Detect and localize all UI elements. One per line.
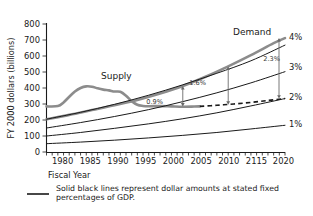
chart-canvas: 800 700 600 500 400 300 200 100 0 1980 1… (0, 0, 313, 216)
arrow-head-bottom (277, 95, 281, 98)
x-tick-label: 1990 (107, 156, 128, 166)
gap-arrow-1-6pct (226, 66, 230, 104)
annotation-label-2-3pct: 2.3% (263, 55, 280, 63)
footnote-line-2: percentages of GDP. (56, 193, 135, 202)
x-tick-label: 2020 (273, 156, 294, 166)
annotation-label-0-9pct: 0.9% (146, 98, 163, 106)
y-tick-marks (43, 24, 47, 152)
footnote-line-1: Solid black lines represent dollar amoun… (56, 184, 279, 193)
x-tick-label: 2115 (246, 156, 267, 166)
y-tick-label: 300 (24, 99, 40, 109)
annotation-label-1-6pct: 1.6% (189, 79, 206, 87)
series-label-demand: Demand (233, 27, 271, 37)
y-tick-label: 600 (24, 51, 40, 61)
y-tick-label: 400 (24, 83, 40, 93)
x-tick-label: 2005 (190, 156, 211, 166)
right-label-1pct: 1% (289, 119, 302, 129)
chart-figure: 800 700 600 500 400 300 200 100 0 1980 1… (0, 0, 313, 216)
right-label-2pct: 2% (289, 92, 302, 102)
y-tick-labels: 800 700 600 500 400 300 200 100 0 (24, 19, 40, 157)
series-layer (47, 38, 286, 144)
series-label-supply: Supply (101, 71, 132, 81)
x-tick-label: 1995 (135, 156, 156, 166)
y-tick-label: 700 (24, 35, 40, 45)
series-path-1-of-gdp (47, 125, 286, 143)
y-tick-label: 0 (35, 147, 40, 157)
y-tick-label: 100 (24, 131, 40, 141)
series-path-2-of-gdp (47, 99, 286, 136)
right-label-4pct: 4% (289, 32, 302, 42)
x-tick-label: 1980 (52, 156, 73, 166)
x-axis-title: Fiscal Year (48, 170, 91, 180)
series-path-extended-supply-flat (200, 99, 285, 107)
right-label-3pct: 3% (289, 62, 302, 72)
footnote-group: Solid black lines represent dollar amoun… (27, 184, 279, 202)
y-axis-title: FY 2000 dollars (billions) (6, 38, 16, 139)
x-tick-label: 1985 (80, 156, 101, 166)
x-tick-labels: 1980 1985 1990 1995 2000 2005 2010 2115 … (52, 156, 294, 166)
y-tick-label: 200 (24, 115, 40, 125)
y-tick-label: 800 (24, 19, 40, 29)
y-tick-label: 500 (24, 67, 40, 77)
series-path-3-of-gdp (47, 72, 286, 128)
gap-arrow-0-9pct (181, 86, 185, 106)
x-tick-label: 2010 (218, 156, 239, 166)
x-tick-label: 2000 (163, 156, 184, 166)
